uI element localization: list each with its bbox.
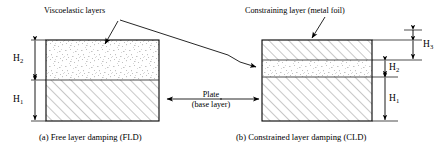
fld-dimension-h1 — [31, 81, 46, 121]
cld-dimension-label-h2: H2 — [389, 62, 399, 72]
caption-fld: (a) Free layer damping (FLD) — [39, 132, 142, 142]
plate-base-layer-label: Plate (base layer) — [175, 90, 247, 111]
damping-treatment-diagram: Viscoelastic layers Constraining layer (… — [0, 0, 447, 151]
plate-label-line2: (base layer) — [175, 100, 247, 110]
fld-dimension-label-h2: H2 — [13, 53, 23, 63]
cld-extension-lines — [372, 40, 422, 121]
fld-dimension-label-h1: H1 — [13, 94, 23, 104]
diagram-canvas — [0, 0, 447, 151]
cld-constraining-layer — [262, 40, 372, 60]
cld-viscoelastic-layer — [262, 60, 372, 77]
cld-dimension-h3 — [404, 30, 422, 59]
cld-dimension-label-h3: H3 — [423, 39, 433, 49]
cld-base-plate-layer — [262, 77, 372, 121]
constraining-layer-label: Constraining layer (metal foil) — [245, 6, 345, 15]
fld-stack — [46, 40, 159, 121]
plate-label-line1: Plate — [175, 90, 247, 100]
fld-base-plate-layer — [46, 80, 159, 121]
fld-viscoelastic-layer — [46, 40, 159, 80]
leader-constraining-to-cld — [312, 17, 325, 38]
cld-dimension-label-h1: H1 — [389, 93, 399, 103]
viscoelastic-layers-label: Viscoelastic layers — [44, 6, 105, 15]
caption-cld: (b) Constrained layer damping (CLD) — [236, 132, 366, 142]
cld-stack — [262, 40, 372, 121]
fld-dimension-h2 — [31, 40, 46, 80]
